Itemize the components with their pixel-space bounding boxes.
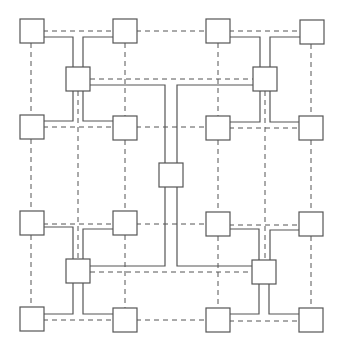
hub-node-h3 (252, 260, 276, 284)
solid-link (83, 37, 113, 67)
solid-link (270, 230, 299, 260)
leaf-node-n00 (20, 19, 44, 43)
solid-link (229, 91, 260, 122)
solid-link (43, 37, 73, 67)
hub-node-h2 (66, 259, 90, 283)
leaf-node-n12 (206, 116, 230, 140)
hub-node-h0 (66, 67, 90, 91)
solid-link (83, 91, 113, 121)
solid-link (83, 283, 113, 314)
leaf-node-n03 (300, 20, 324, 44)
network-topology-diagram (0, 0, 340, 352)
leaf-node-n11 (113, 116, 137, 140)
leaf-node-n32 (206, 308, 230, 332)
leaf-node-n13 (299, 116, 323, 140)
solid-link (43, 283, 73, 314)
leaf-node-n21 (113, 211, 137, 235)
leaf-node-n01 (113, 19, 137, 43)
leaf-node-n10 (20, 115, 44, 139)
solid-link (43, 91, 73, 121)
center-node-c (159, 163, 183, 187)
solid-link (43, 227, 73, 259)
leaf-node-n23 (299, 212, 323, 236)
solid-link (229, 37, 260, 67)
leaf-node-n30 (20, 307, 44, 331)
leaf-node-n33 (299, 308, 323, 332)
leaf-node-n31 (113, 308, 137, 332)
solid-link (229, 229, 259, 260)
hub-node-h1 (253, 67, 277, 91)
solid-link (83, 229, 113, 259)
solid-link (270, 91, 299, 122)
nodes (20, 19, 324, 332)
leaf-node-n22 (206, 212, 230, 236)
solid-link (269, 284, 299, 314)
leaf-node-n20 (20, 211, 44, 235)
leaf-node-n02 (206, 19, 230, 43)
solid-link (229, 284, 259, 314)
solid-link (270, 37, 300, 67)
